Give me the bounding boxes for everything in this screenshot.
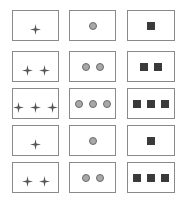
circle-icon bbox=[89, 100, 97, 108]
square-icon bbox=[147, 174, 155, 182]
star-icon bbox=[22, 61, 33, 72]
cell-star-row-4 bbox=[12, 125, 59, 156]
cell-circle-row-2 bbox=[69, 51, 116, 82]
circle-icon bbox=[75, 100, 83, 108]
star-icon bbox=[30, 98, 41, 109]
circle-icon bbox=[82, 63, 90, 71]
cell-square-row-2 bbox=[127, 51, 175, 82]
star-icon bbox=[39, 172, 50, 183]
cell-square-row-4 bbox=[127, 125, 175, 156]
star-icon bbox=[47, 98, 58, 109]
cell-star-row-2 bbox=[12, 51, 59, 82]
cell-square-row-5 bbox=[127, 162, 175, 193]
cell-square-row-1 bbox=[127, 10, 175, 41]
star-icon bbox=[13, 98, 24, 109]
circle-icon bbox=[103, 100, 111, 108]
cell-circle-row-5 bbox=[69, 162, 116, 193]
cell-star-row-5 bbox=[12, 162, 59, 193]
star-icon bbox=[30, 20, 41, 31]
square-icon bbox=[161, 174, 169, 182]
circle-icon bbox=[96, 63, 104, 71]
square-icon bbox=[147, 137, 155, 145]
square-icon bbox=[161, 100, 169, 108]
circle-icon bbox=[96, 174, 104, 182]
square-icon bbox=[147, 100, 155, 108]
circle-icon bbox=[89, 22, 97, 30]
star-icon bbox=[22, 172, 33, 183]
cell-star-row-3 bbox=[12, 88, 59, 119]
square-icon bbox=[140, 63, 148, 71]
circle-icon bbox=[89, 137, 97, 145]
cell-circle-row-4 bbox=[69, 125, 116, 156]
star-icon bbox=[30, 135, 41, 146]
circle-icon bbox=[82, 174, 90, 182]
square-icon bbox=[154, 63, 162, 71]
cell-star-row-1 bbox=[12, 10, 59, 41]
square-icon bbox=[133, 100, 141, 108]
square-icon bbox=[147, 22, 155, 30]
square-icon bbox=[133, 174, 141, 182]
star-icon bbox=[39, 61, 50, 72]
cell-circle-row-3 bbox=[69, 88, 116, 119]
cell-circle-row-1 bbox=[69, 10, 116, 41]
cell-square-row-3 bbox=[127, 88, 175, 119]
